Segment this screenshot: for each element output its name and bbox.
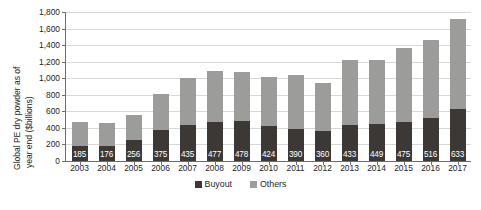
bar-value-label-buyout: 633 [450, 150, 466, 159]
bar-column[interactable]: 475 [396, 48, 412, 161]
bar-value-label-buyout: 433 [342, 150, 358, 159]
y-axis-tick-mark [62, 161, 66, 162]
bar-segment-others[interactable] [234, 72, 250, 121]
bar-value-label-buyout: 360 [315, 150, 331, 159]
bar-segment-others[interactable] [369, 60, 385, 124]
bar-series-group: 1851762563754354774784243903604334494755… [66, 12, 471, 161]
bar-value-label-buyout: 185 [72, 150, 88, 159]
bar-column[interactable]: 360 [315, 83, 331, 161]
bar-value-label-buyout: 375 [153, 150, 169, 159]
y-axis-tick-label: 1,000 [39, 73, 60, 83]
x-axis-tick-label: 2012 [313, 163, 332, 173]
bar-segment-others[interactable] [423, 40, 439, 119]
y-axis-tick-label: 200 [46, 139, 60, 149]
chart-legend: BuyoutOthers [0, 179, 481, 189]
bar-value-label-buyout: 390 [288, 150, 304, 159]
bar-segment-buyout[interactable]: 424 [261, 126, 277, 161]
x-axis-tick-label: 2011 [286, 163, 304, 173]
bar-segment-others[interactable] [342, 60, 358, 126]
x-axis-tick-label: 2008 [205, 163, 224, 173]
bar-segment-buyout[interactable]: 475 [396, 122, 412, 161]
legend-item[interactable]: Others [250, 179, 286, 189]
y-axis-tick-label: 600 [46, 106, 60, 116]
bar-value-label-buyout: 424 [261, 150, 277, 159]
bar-column[interactable]: 375 [153, 94, 169, 161]
bar-segment-buyout[interactable]: 360 [315, 131, 331, 161]
legend-swatch-icon [250, 181, 257, 188]
bar-value-label-buyout: 449 [369, 150, 385, 159]
bar-segment-others[interactable] [396, 48, 412, 122]
bar-segment-others[interactable] [99, 123, 115, 146]
y-axis-tick-label: 1,400 [39, 40, 60, 50]
y-axis-tick-label: 800 [46, 90, 60, 100]
bar-segment-buyout[interactable]: 435 [180, 125, 196, 161]
bar-column[interactable]: 433 [342, 60, 358, 161]
bar-segment-others[interactable] [288, 75, 304, 129]
x-axis-tick-label: 2004 [97, 163, 116, 173]
x-axis-tick-label: 2007 [178, 163, 197, 173]
legend-item[interactable]: Buyout [195, 179, 232, 189]
bar-segment-others[interactable] [261, 77, 277, 126]
x-axis-tick-label: 2013 [340, 163, 359, 173]
bar-segment-buyout[interactable]: 185 [72, 146, 88, 161]
legend-swatch-icon [195, 181, 202, 188]
bar-segment-buyout[interactable]: 375 [153, 130, 169, 161]
bar-segment-others[interactable] [450, 19, 466, 109]
bar-segment-others[interactable] [153, 94, 169, 130]
bar-segment-buyout[interactable]: 633 [450, 109, 466, 161]
y-axis-tick-label: 1,200 [39, 57, 60, 67]
bar-segment-buyout[interactable]: 477 [207, 122, 223, 161]
legend-label: Buyout [205, 179, 232, 189]
bar-column[interactable]: 477 [207, 71, 223, 161]
bar-segment-buyout[interactable]: 433 [342, 125, 358, 161]
x-axis-tick-label: 2005 [124, 163, 143, 173]
bar-segment-others[interactable] [126, 115, 142, 140]
bar-value-label-buyout: 256 [126, 150, 142, 159]
bar-column[interactable]: 424 [261, 77, 277, 161]
legend-label: Others [260, 179, 286, 189]
bar-segment-buyout[interactable]: 390 [288, 129, 304, 161]
bar-column[interactable]: 449 [369, 60, 385, 161]
x-axis-tick-label: 2006 [151, 163, 170, 173]
x-axis-tick-labels: 2003200420052006200720082009201020112012… [66, 163, 471, 177]
bar-segment-buyout[interactable]: 478 [234, 121, 250, 161]
bar-value-label-buyout: 475 [396, 150, 412, 159]
bar-column[interactable]: 390 [288, 75, 304, 161]
y-axis-tick-label: 0 [55, 156, 60, 166]
bar-segment-buyout[interactable]: 516 [423, 118, 439, 161]
bar-segment-others[interactable] [72, 122, 88, 146]
x-axis-tick-label: 2015 [394, 163, 413, 173]
y-axis-tick-label: 400 [46, 123, 60, 133]
bar-segment-buyout[interactable]: 176 [99, 146, 115, 161]
x-axis-tick-label: 2010 [259, 163, 278, 173]
bar-column[interactable]: 435 [180, 78, 196, 161]
bar-value-label-buyout: 516 [423, 150, 439, 159]
bar-segment-others[interactable] [207, 71, 223, 121]
y-axis-tick-labels: 1,8001,6001,4001,2001,0008006004002000 [30, 0, 63, 178]
bar-column[interactable]: 478 [234, 72, 250, 161]
bar-value-label-buyout: 478 [234, 150, 250, 159]
caption-cutoff [0, 200, 481, 210]
x-axis-tick-label: 2017 [448, 163, 467, 173]
bar-column[interactable]: 185 [72, 122, 88, 161]
pe-dry-powder-stacked-bar-chart: Global PE dry powder as of year end ($bi… [0, 0, 481, 210]
y-axis-title-line-1: Global PE dry powder as of [12, 67, 22, 170]
bar-value-label-buyout: 435 [180, 150, 196, 159]
x-axis-tick-label: 2014 [367, 163, 386, 173]
bar-segment-others[interactable] [315, 83, 331, 131]
bar-segment-buyout[interactable]: 256 [126, 140, 142, 161]
bar-segment-buyout[interactable]: 449 [369, 124, 385, 161]
y-axis-tick-label: 1,600 [39, 24, 60, 34]
bar-column[interactable]: 256 [126, 115, 142, 161]
bar-segment-others[interactable] [180, 78, 196, 125]
bar-column[interactable]: 176 [99, 123, 115, 161]
bar-column[interactable]: 516 [423, 40, 439, 161]
x-axis-tick-label: 2016 [421, 163, 440, 173]
x-axis-tick-label: 2009 [232, 163, 251, 173]
y-axis-title: Global PE dry powder as of year end ($bi… [0, 0, 32, 178]
y-axis-tick-label: 1,800 [39, 7, 60, 17]
bar-value-label-buyout: 176 [99, 150, 115, 159]
bar-column[interactable]: 633 [450, 19, 466, 161]
plot-area: 1851762563754354774784243903604334494755… [66, 12, 471, 161]
bar-value-label-buyout: 477 [207, 150, 223, 159]
